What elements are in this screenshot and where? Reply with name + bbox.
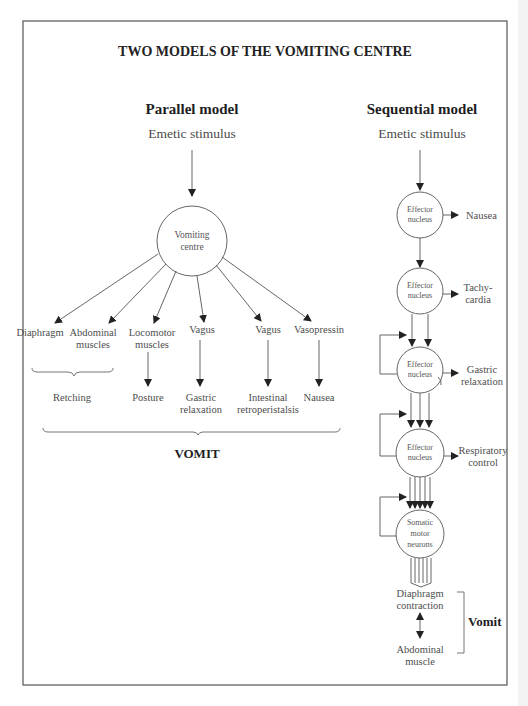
effect-gastric-2: relaxation: [180, 404, 223, 415]
final-abdominal-2: muscle: [405, 656, 435, 667]
output-vagus-1: Vagus: [189, 324, 215, 335]
output-diaphragm: Diaphragm: [16, 327, 63, 338]
node2-label-1: Effector: [407, 281, 433, 290]
vomiting-centre-label-2: centre: [180, 242, 203, 252]
effect-retching: Retching: [53, 392, 92, 403]
output-tachycardia-2: cardia: [465, 294, 491, 305]
sequential-model: Sequential model Emetic stimulus Effecto…: [367, 101, 508, 667]
node4-label-1: Effector: [407, 443, 433, 452]
node5-label-3: neurons: [407, 540, 432, 549]
output-nausea: Nausea: [466, 210, 497, 221]
final-diaphragm-1: Diaphragm: [396, 588, 443, 599]
figure-title: TWO MODELS OF THE VOMITING CENTRE: [118, 44, 412, 59]
effect-nausea: Nausea: [304, 392, 335, 403]
arrow-down-head: [416, 631, 424, 639]
motor-output-bundle: [411, 558, 431, 587]
retching-brace: [32, 368, 113, 376]
output-vasopressin: Vasopressin: [294, 324, 345, 335]
node2-label-2: nucleus: [408, 291, 432, 300]
arrow-up-head: [416, 612, 424, 620]
output-respiratory-2: control: [468, 457, 498, 468]
output-vagus-2: Vagus: [255, 324, 281, 335]
output-gastric-2: relaxation: [461, 376, 504, 387]
vomiting-centre-diagram: TWO MODELS OF THE VOMITING CENTRE Parall…: [0, 0, 528, 706]
sequential-vomit-label: Vomit: [468, 614, 502, 629]
effect-intestinal-1: Intestinal: [248, 392, 287, 403]
parallel-model: Parallel model Emetic stimulus Vomiting …: [16, 101, 344, 461]
output-tachycardia-1: Tachy-: [464, 282, 494, 293]
vomit-bracket: [457, 592, 464, 653]
final-abdominal-1: Abdominal: [396, 644, 443, 655]
output-gastric-1: Gastric: [467, 364, 498, 375]
node1-label-2: nucleus: [408, 215, 432, 224]
arrow-to-vagus-1: [197, 276, 204, 322]
node1-label-1: Effector: [407, 205, 433, 214]
node3-label-1: Effector: [407, 360, 433, 369]
vomiting-centre-label-1: Vomiting: [174, 230, 209, 240]
node5-label-1: Somatic: [407, 518, 434, 527]
sequential-emetic-stimulus: Emetic stimulus: [378, 126, 465, 141]
output-abdominal-1: Abdominal: [69, 327, 116, 338]
vomit-brace: [43, 428, 340, 435]
arrow-to-vagus-2: [216, 265, 261, 321]
arrow-to-locomotor: [154, 271, 176, 323]
parallel-model-heading: Parallel model: [146, 101, 239, 117]
output-locomotor-1: Locomotor: [129, 327, 176, 338]
output-locomotor-2: muscles: [135, 339, 169, 350]
output-abdominal-2: muscles: [76, 339, 110, 350]
final-diaphragm-2: contraction: [396, 600, 444, 611]
effect-posture: Posture: [132, 392, 164, 403]
sequential-model-heading: Sequential model: [367, 101, 477, 117]
parallel-vomit-label: VOMIT: [174, 446, 220, 461]
output-respiratory-1: Respiratory: [459, 445, 509, 456]
parallel-emetic-stimulus: Emetic stimulus: [148, 126, 235, 141]
node4-label-2: nucleus: [408, 453, 432, 462]
effect-gastric-1: Gastric: [186, 392, 217, 403]
node3-label-2: nucleus: [408, 370, 432, 379]
effect-intestinal-2: retroperistalsis: [237, 404, 299, 415]
node5-label-2: motor: [410, 529, 429, 538]
